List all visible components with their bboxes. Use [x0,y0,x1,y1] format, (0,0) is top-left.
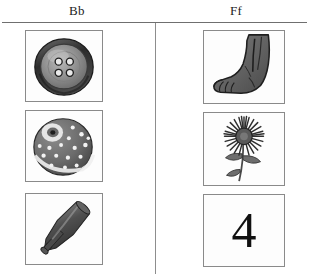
flower-icon [204,113,284,185]
column-heading-bb: Bb [25,2,129,20]
foot-icon [204,31,284,103]
column-heading-ff: Ff [180,2,292,20]
column-heading-row: Bb Ff [0,2,309,22]
numeral-four: 4 [204,195,284,266]
ball-icon [26,111,102,181]
picture-cell[interactable] [25,193,103,265]
alphabet-picture-worksheet: Bb Ff [0,0,309,275]
picture-cell[interactable] [203,112,285,186]
picture-cell[interactable] [25,30,103,102]
button-icon [26,31,102,101]
baseball-bat-icon [26,194,102,264]
picture-cell[interactable]: 4 [203,194,285,267]
picture-cell[interactable] [25,110,103,182]
column-divider-line [155,23,156,274]
picture-cell[interactable] [203,30,285,104]
